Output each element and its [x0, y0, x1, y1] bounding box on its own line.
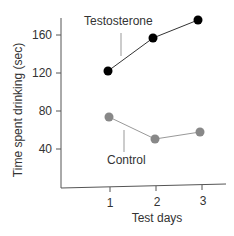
data-point	[194, 16, 203, 25]
line-chart: 160 120 80 40 1 2 3 Test days Time spent…	[0, 0, 234, 236]
x-axis-label: Test days	[132, 211, 183, 225]
x-tick-label: 1	[107, 196, 114, 210]
data-point	[105, 113, 114, 122]
data-point	[104, 67, 113, 76]
series-label-testosterone: Testosterone	[84, 14, 153, 28]
series-testosterone: Testosterone	[84, 14, 203, 76]
series-label-control: Control	[107, 153, 146, 167]
x-tick-label: 2	[154, 195, 161, 209]
x-ticks: 1 2 3	[107, 185, 207, 210]
data-point	[149, 34, 158, 43]
y-tick-label: 120	[32, 66, 52, 80]
x-axis	[61, 184, 226, 188]
y-tick-label: 40	[39, 142, 53, 156]
data-point	[151, 135, 160, 144]
x-tick-label: 3	[200, 194, 207, 208]
data-point	[196, 128, 205, 137]
y-axis-label: Time spent drinking (sec)	[11, 43, 25, 177]
series-control: Control	[105, 113, 205, 168]
y-tick-label: 160	[32, 28, 52, 42]
y-ticks: 160 120 80 40	[32, 28, 61, 156]
y-tick-label: 80	[39, 104, 53, 118]
